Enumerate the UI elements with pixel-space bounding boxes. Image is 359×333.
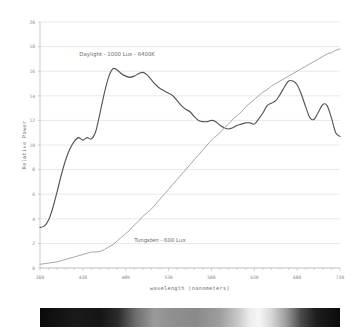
x-tick-label: 680 [293,275,302,280]
y-tick-label: 14 [29,94,35,99]
y-tick-label: 8 [32,167,35,172]
y-axis-title: Relative Power [21,121,27,170]
plot-canvas: 02468101214161820 3804304805305806306807… [0,0,359,300]
y-tick-label: 0 [32,266,35,271]
x-tick-label: 430 [79,275,88,280]
y-tick-label: 4 [32,217,35,222]
spectral-power-distribution-chart: 02468101214161820 3804304805305806306807… [0,0,359,333]
x-tick-label: 530 [164,275,173,280]
x-tick-label: 630 [250,275,259,280]
y-tick-label: 6 [32,192,35,197]
series-curves [40,49,340,264]
x-axis-tick-labels: 380430480530580630680730 [36,275,345,280]
y-tick-label: 18 [29,44,35,49]
x-axis-title: wavelength (nanometers) [150,285,230,292]
series-label-daylight: Daylight - 1000 Lux - 6400K [79,51,155,58]
series-line-tungsten [40,49,340,264]
grid-lines [40,22,340,268]
series-annotations: Daylight - 1000 Lux - 6400KTungsten - 60… [79,51,186,244]
x-axis-minor-ticks [40,268,340,271]
series-label-tungsten: Tungsten - 600 Lux [133,237,186,244]
x-tick-label: 380 [36,275,45,280]
y-tick-label: 10 [29,143,35,148]
y-tick-label: 2 [32,241,35,246]
x-tick-label: 480 [122,275,131,280]
x-tick-label: 580 [207,275,216,280]
y-tick-label: 16 [29,69,35,74]
y-tick-label: 12 [29,118,35,123]
visible-spectrum-bar [40,308,340,327]
x-tick-label: 730 [336,275,345,280]
series-line-daylight [40,68,340,227]
y-axis-tick-labels: 02468101214161820 [29,20,40,271]
y-tick-label: 20 [29,20,35,25]
